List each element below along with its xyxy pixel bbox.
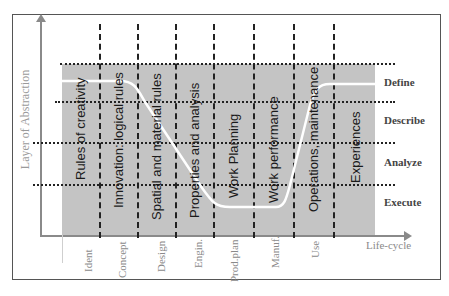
stage-label: Engin. [192, 239, 204, 268]
stage-label: Manuf. [269, 236, 281, 268]
stage-label: Use [309, 241, 321, 258]
level-label-define: Define [384, 76, 415, 88]
phase-label: Work performance [266, 96, 281, 203]
phase-label: Work Planning [226, 114, 241, 198]
phase-label: Spatial and material rules [149, 73, 164, 220]
stage-label: Prod.plan [228, 240, 240, 282]
phase-label: Properties and analysis [187, 83, 202, 218]
x-axis-label: Life-cycle [366, 239, 411, 251]
phase-label: Rules of creativity [73, 77, 88, 180]
stage-label: Concept [116, 241, 128, 278]
phase-label: Innovation: logical rules [111, 72, 126, 208]
level-label-analyze: Analyze [384, 156, 422, 168]
abstraction-curve [0, 0, 449, 296]
level-label-describe: Describe [384, 114, 425, 126]
phase-label: Operations, maintenance [306, 67, 321, 212]
level-label-execute: Execute [384, 196, 421, 208]
stage-label: Ident [82, 249, 94, 272]
phase-label: Experiences [348, 111, 363, 183]
stage-label: Design [155, 241, 167, 272]
